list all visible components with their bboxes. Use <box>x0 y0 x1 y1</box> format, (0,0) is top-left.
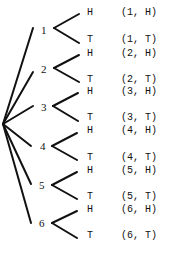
die-outcome-5: 5 <box>39 180 45 190</box>
coin-label-6-T: T <box>87 231 93 241</box>
branch-6-H <box>52 211 77 223</box>
branch-3-H <box>53 93 78 106</box>
branch-5-T <box>52 185 77 199</box>
branch-4-H <box>52 133 77 146</box>
coin-label-5-T: T <box>87 192 93 202</box>
second-stage-branches <box>52 14 79 238</box>
outcome-3-H: (3, H) <box>121 87 157 97</box>
outcome-2-H: (2, H) <box>121 49 157 59</box>
die-outcome-6: 6 <box>39 218 45 228</box>
die-outcome-4: 4 <box>40 141 46 151</box>
outcome-1-T: (1, T) <box>121 35 157 45</box>
outcome-1-H: (1, H) <box>121 8 157 18</box>
branch-4-T <box>52 146 77 160</box>
branch-5-H <box>52 172 77 185</box>
branch-2-H <box>54 55 79 68</box>
coin-label-3-T: T <box>87 113 93 123</box>
outcome-2-T: (2, T) <box>121 75 157 85</box>
branch-1-H <box>54 14 79 28</box>
branch-to-2 <box>3 72 33 124</box>
coin-label-4-T: T <box>87 153 93 163</box>
branch-1-T <box>54 28 79 43</box>
outcome-6-T: (6, T) <box>121 231 157 241</box>
outcome-5-H: (5, H) <box>121 166 157 176</box>
coin-label-1-T: T <box>87 35 93 45</box>
die-outcome-2: 2 <box>41 64 47 74</box>
coin-label-6-H: H <box>87 205 93 215</box>
outcome-6-H: (6, H) <box>121 205 157 215</box>
outcome-4-T: (4, T) <box>121 153 157 163</box>
die-outcome-3: 3 <box>41 102 47 112</box>
die-outcome-1: 1 <box>41 25 47 35</box>
coin-label-1-H: H <box>87 8 93 18</box>
branch-6-T <box>52 223 77 238</box>
coin-label-2-T: T <box>87 75 93 85</box>
branch-3-T <box>53 106 78 121</box>
outcome-3-T: (3, T) <box>121 113 157 123</box>
branch-2-T <box>54 68 79 82</box>
coin-label-2-H: H <box>87 49 93 59</box>
outcome-4-H: (4, H) <box>121 126 157 136</box>
first-stage-branches <box>3 28 33 223</box>
outcome-5-T: (5, T) <box>121 192 157 202</box>
coin-label-4-H: H <box>87 126 93 136</box>
coin-label-5-H: H <box>87 166 93 176</box>
coin-label-3-H: H <box>87 87 93 97</box>
